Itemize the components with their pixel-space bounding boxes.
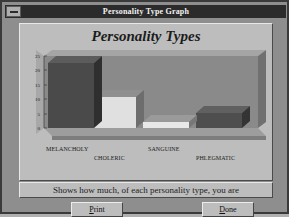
window-title: Personality Type Graph	[21, 7, 286, 16]
print-button-label: rint	[94, 205, 105, 214]
bar-melancholy-front	[48, 63, 94, 128]
print-button[interactable]: Print	[71, 202, 123, 214]
window-menu-icon[interactable]	[6, 6, 21, 17]
bar-phlegmatic-top	[196, 106, 250, 113]
bar-sanguine-top	[143, 115, 197, 122]
chart-floor	[44, 128, 266, 136]
chart-title: Personality Types	[20, 28, 272, 45]
chart-top-bevel	[44, 50, 266, 56]
caption-panel: Shows how much, of each personality type…	[19, 182, 273, 198]
bar-melancholy-right	[94, 56, 102, 128]
caption-text: Shows how much, of each personality type…	[53, 185, 239, 195]
bar-sanguine-front	[143, 122, 189, 128]
done-button-label: one	[225, 205, 237, 214]
y-tick-15: 15	[35, 83, 41, 88]
x-axis-labels: MELANCHOLY CHOLERIC SANGUINE PHLEGMATIC	[20, 146, 273, 170]
chart-floor-lip	[52, 136, 266, 140]
application-window: Personality Type Graph Personality Types	[0, 0, 289, 214]
client-area: Personality Types	[5, 19, 286, 211]
chart-svg: 25 20 15 10 5 0	[26, 50, 270, 148]
y-tick-10: 10	[35, 97, 41, 102]
window-menu-glyph	[10, 11, 18, 13]
chart-right-wall	[258, 50, 266, 128]
x-label-choleric: CHOLERIC	[94, 155, 125, 161]
bar-phlegmatic-front	[196, 113, 242, 128]
y-tick-20: 20	[35, 68, 41, 73]
x-label-sanguine: SANGUINE	[148, 146, 179, 152]
x-label-melancholy: MELANCHOLY	[46, 146, 88, 152]
done-button[interactable]: Done	[202, 202, 254, 214]
bar-melancholy-top	[48, 56, 102, 63]
bar-sanguine	[143, 115, 197, 128]
chart-left-wall	[36, 50, 44, 134]
x-label-phlegmatic: PHLEGMATIC	[196, 155, 235, 161]
title-bar: Personality Type Graph	[5, 5, 286, 18]
y-tick-25: 25	[35, 54, 41, 59]
bar-melancholy	[48, 56, 102, 128]
bar-chart-3d: 25 20 15 10 5 0	[26, 50, 270, 148]
bar-phlegmatic	[196, 106, 250, 128]
graph-panel: Personality Types	[19, 23, 273, 181]
